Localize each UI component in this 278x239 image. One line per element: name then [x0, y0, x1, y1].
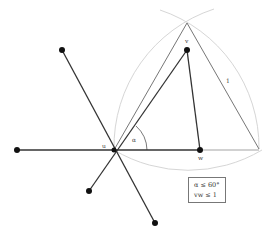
node-bottom: [152, 220, 158, 226]
constraint-angle: α ≤ 60°: [194, 180, 225, 190]
constraint-length: vw ≤ 1: [194, 190, 225, 200]
arc-from-left: [160, 10, 259, 149]
angle-arc: [136, 126, 147, 150]
node-u: [112, 148, 117, 153]
label-side-length: 1: [226, 77, 230, 84]
label-alpha: α: [132, 136, 136, 143]
diagram-canvas: u v w α 1: [0, 0, 278, 239]
graph-edges: [17, 50, 200, 223]
node-w: [197, 147, 203, 153]
arc-from-apex: [114, 150, 262, 170]
constraints-box: α ≤ 60° vw ≤ 1: [188, 177, 226, 203]
label-w: w: [198, 154, 204, 161]
node-upper-left: [59, 47, 65, 53]
triangle-left-side: [114, 23, 187, 150]
node-lower-left: [86, 188, 92, 194]
label-u: u: [102, 142, 106, 149]
edge-v-w: [187, 50, 200, 150]
construction-arcs: [114, 9, 262, 170]
label-v: v: [184, 37, 189, 44]
node-v: [184, 47, 190, 53]
edge-upperleft-bottom: [62, 50, 155, 223]
node-left: [14, 147, 20, 153]
